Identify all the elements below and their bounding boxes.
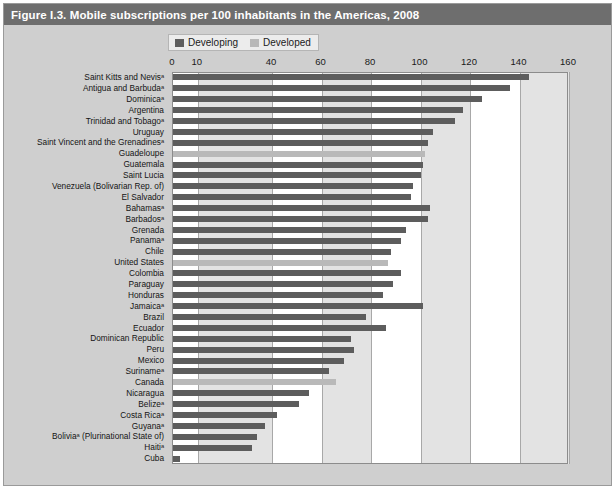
bar[interactable] (173, 129, 433, 135)
category-label: Guyanaᵃ (132, 422, 164, 430)
bar-row[interactable] (173, 183, 569, 189)
bar-row[interactable] (173, 445, 569, 451)
bar-row[interactable] (173, 281, 569, 287)
x-tick-label: 100 (412, 56, 428, 67)
bar-row[interactable] (173, 205, 569, 211)
category-label: Trinidad and Tobagoᵃ (86, 117, 164, 125)
bar[interactable] (173, 314, 366, 320)
bar[interactable] (173, 162, 423, 168)
category-label: Nicaragua (126, 389, 164, 397)
legend-item-developing[interactable]: Developing (175, 37, 238, 48)
category-label: Chile (145, 247, 164, 255)
category-label: Uruguay (133, 128, 164, 136)
category-label: Guatemala (123, 160, 164, 168)
bar[interactable] (173, 140, 428, 146)
bar[interactable] (173, 227, 406, 233)
bar[interactable] (173, 260, 388, 266)
bar[interactable] (173, 423, 265, 429)
legend-item-developed[interactable]: Developed (250, 37, 311, 48)
bar-row[interactable] (173, 347, 569, 353)
bar-row[interactable] (173, 379, 569, 385)
x-tick-label: 140 (511, 56, 527, 67)
bar[interactable] (173, 172, 421, 178)
bar[interactable] (173, 325, 386, 331)
bar-row[interactable] (173, 85, 569, 91)
bar[interactable] (173, 216, 428, 222)
bar[interactable] (173, 118, 455, 124)
bar-row[interactable] (173, 96, 569, 102)
page-title: Figure I.3. Mobile subscriptions per 100… (4, 9, 419, 21)
bar[interactable] (173, 151, 425, 157)
x-tick-label: 80 (365, 56, 376, 67)
bar[interactable] (173, 96, 482, 102)
category-label: Dominican Republic (90, 334, 164, 342)
x-tick-label: 0 (169, 56, 174, 67)
category-label: Belizeᵃ (138, 400, 164, 408)
bar-row[interactable] (173, 390, 569, 396)
bar-row[interactable] (173, 314, 569, 320)
x-tick-label: 120 (461, 56, 477, 67)
bar-row[interactable] (173, 172, 569, 178)
bar[interactable] (173, 194, 411, 200)
bar[interactable] (173, 183, 413, 189)
x-axis-tick-labels: 010406080100120140160 (0, 56, 615, 70)
bar-row[interactable] (173, 129, 569, 135)
category-label: Paraguay (128, 280, 164, 288)
bar[interactable] (173, 434, 257, 440)
bar-row[interactable] (173, 249, 569, 255)
bar-row[interactable] (173, 107, 569, 113)
bar-row[interactable] (173, 151, 569, 157)
bar-row[interactable] (173, 358, 569, 364)
bar-row[interactable] (173, 260, 569, 266)
bar[interactable] (173, 445, 252, 451)
bar-row[interactable] (173, 412, 569, 418)
bar[interactable] (173, 379, 336, 385)
bar-row[interactable] (173, 423, 569, 429)
bar-row[interactable] (173, 140, 569, 146)
bar-row[interactable] (173, 118, 569, 124)
category-label: Canada (135, 378, 164, 386)
bar-row[interactable] (173, 292, 569, 298)
bar-row[interactable] (173, 216, 569, 222)
category-label: Saint Lucia (123, 171, 164, 179)
category-label: Guadeloupe (119, 149, 164, 157)
bar[interactable] (173, 412, 277, 418)
bar-row[interactable] (173, 270, 569, 276)
bar-row[interactable] (173, 303, 569, 309)
legend-label-developed: Developed (263, 37, 311, 48)
bar[interactable] (173, 85, 510, 91)
bar[interactable] (173, 281, 393, 287)
bar-row[interactable] (173, 368, 569, 374)
bar[interactable] (173, 368, 329, 374)
bar[interactable] (173, 205, 430, 211)
bar[interactable] (173, 270, 401, 276)
bar[interactable] (173, 347, 354, 353)
bar-row[interactable] (173, 227, 569, 233)
bar-row[interactable] (173, 74, 569, 80)
bar-row[interactable] (173, 238, 569, 244)
bar-row[interactable] (173, 194, 569, 200)
category-label: Colombia (129, 269, 164, 277)
bar-row[interactable] (173, 325, 569, 331)
y-axis-category-labels: Saint Kitts and NevisᵃAntigua and Barbud… (0, 72, 168, 464)
bar[interactable] (173, 249, 391, 255)
bar[interactable] (173, 303, 423, 309)
bar[interactable] (173, 390, 309, 396)
bar[interactable] (173, 336, 351, 342)
bar[interactable] (173, 107, 463, 113)
category-label: Bahamasᵃ (126, 204, 164, 212)
bar-row[interactable] (173, 401, 569, 407)
bar[interactable] (173, 401, 299, 407)
bar-row[interactable] (173, 162, 569, 168)
category-label: Grenada (132, 226, 164, 234)
category-label: El Salvador (122, 193, 164, 201)
bar[interactable] (173, 456, 180, 462)
bar-row[interactable] (173, 434, 569, 440)
bar-row[interactable] (173, 336, 569, 342)
bar[interactable] (173, 358, 344, 364)
bar[interactable] (173, 292, 383, 298)
bar[interactable] (173, 74, 529, 80)
figure-container: Figure I.3. Mobile subscriptions per 100… (0, 0, 615, 489)
bar-row[interactable] (173, 456, 569, 462)
bar[interactable] (173, 238, 401, 244)
